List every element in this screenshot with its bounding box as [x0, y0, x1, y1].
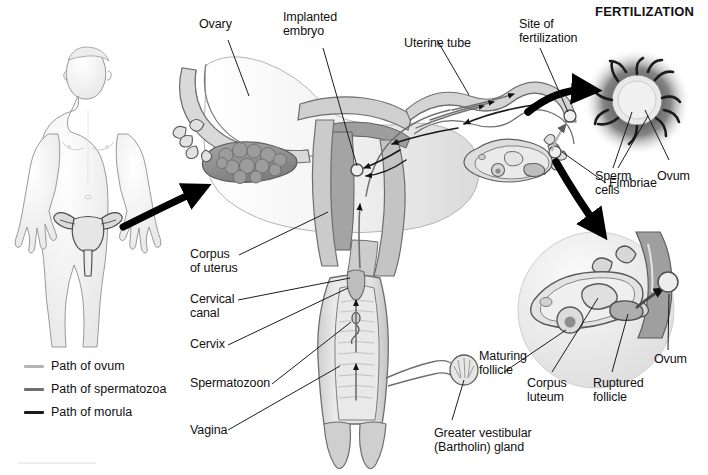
inset-ovum-released [658, 272, 678, 292]
label-cervix: Cervix [190, 338, 225, 352]
legend-item-ovum: Path of ovum [24, 360, 125, 374]
greater-vestibular-gland [386, 355, 478, 386]
label-implanted-embryo-line1: Implanted [283, 11, 337, 25]
label-site-of-fertilization-line2: fertilization [519, 32, 577, 46]
label-fimbriae: Fimbriae [609, 177, 657, 191]
label-corpus-luteum-line2: luteum [527, 391, 564, 405]
figure-canvas: Ovary Implanted embryo Uterine tube Site… [0, 0, 708, 475]
label-site-of-fertilization-line1: Site of [519, 18, 554, 32]
label-corpus-luteum-line1: Corpus [527, 377, 567, 391]
label-implanted-embryo-line2: embryo [283, 25, 324, 39]
legend-label-spermatozoa: Path of spermatozoa [51, 383, 166, 397]
label-uterine-tube: Uterine tube [404, 37, 471, 51]
legend-swatch-ovum [24, 365, 44, 368]
label-ruptured-follicle-line2: follicle [593, 391, 627, 405]
label-maturing-follicle-line2: follicle [479, 364, 513, 378]
legend-label-morula: Path of morula [51, 406, 132, 420]
fertilization-inset [583, 48, 691, 156]
ovary-right-section [464, 139, 552, 182]
label-spermatozoon: Spermatozoon [190, 377, 270, 391]
orientation-body-figure [15, 47, 161, 347]
label-greater-vestibular-line1: Greater vestibular [434, 427, 532, 441]
label-ovum-bottom: Ovum [654, 353, 687, 367]
label-vagina: Vagina [190, 424, 227, 438]
legend-item-spermatozoa: Path of spermatozoa [24, 383, 166, 397]
label-greater-vestibular-line2: (Bartholin) gland [434, 441, 524, 455]
legend-swatch-morula [24, 411, 44, 414]
cervix-and-vagina [318, 270, 389, 469]
label-maturing-follicle-line1: Maturing [479, 350, 527, 364]
zoom-arrow-to-ovary-inset [556, 162, 600, 230]
ovum-at-fertilization-site [564, 110, 576, 122]
bottom-rule [18, 462, 96, 464]
label-ovary: Ovary [199, 18, 232, 32]
label-corpus-of-uterus-line2: of uterus [190, 262, 238, 276]
leader-greater-vestibular [452, 380, 464, 420]
legend-label-ovum: Path of ovum [51, 360, 125, 374]
inset-ruptured-follicle [610, 301, 643, 320]
legend-item-morula: Path of morula [24, 406, 132, 420]
label-cervical-canal-line1: Cervical [190, 293, 234, 307]
legend-swatch-spermatozoa [24, 388, 44, 391]
ovum-released-main [549, 146, 561, 158]
label-corpus-of-uterus-line1: Corpus [190, 248, 230, 262]
fertilization-inset-title: FERTILIZATION [595, 5, 694, 19]
label-ovum-top: Ovum [657, 170, 690, 184]
label-cervical-canal-line2: canal [190, 307, 219, 321]
label-ruptured-follicle-line1: Ruptured [593, 377, 644, 391]
